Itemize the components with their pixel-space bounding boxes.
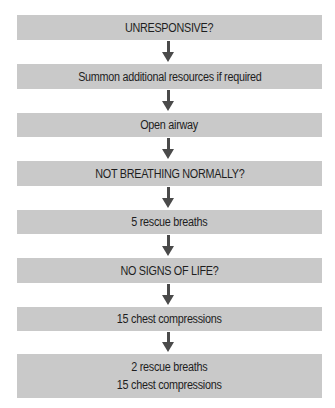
arrow-down-icon: [162, 187, 174, 209]
step-label: UNRESPONSIVE?: [125, 19, 213, 37]
step-label: NO SIGNS OF LIFE?: [120, 262, 218, 280]
arrow-down-icon: [162, 138, 174, 160]
step-label: 15 chest compressions: [117, 310, 222, 328]
step-label: 5 rescue breaths: [131, 213, 207, 231]
arrow-down-icon: [162, 235, 174, 257]
step-not-breathing: NOT BREATHING NORMALLY?: [17, 161, 322, 186]
step-rescue-breaths-5: 5 rescue breaths: [17, 210, 322, 234]
step-open-airway: Open airway: [17, 113, 322, 137]
arrow-down-icon: [162, 41, 174, 63]
step-cycle: 2 rescue breaths 15 chest compressions: [17, 354, 322, 398]
step-label: Summon additional resources if required: [78, 68, 261, 86]
step-chest-compressions-15: 15 chest compressions: [17, 307, 322, 331]
step-no-signs-of-life: NO SIGNS OF LIFE?: [17, 258, 322, 283]
step-label: NOT BREATHING NORMALLY?: [95, 165, 244, 183]
arrow-down-icon: [162, 90, 174, 112]
step-label-line-1: 2 rescue breaths: [131, 358, 207, 376]
step-unresponsive: UNRESPONSIVE?: [17, 15, 322, 40]
step-summon-resources: Summon additional resources if required: [17, 64, 322, 89]
arrow-down-icon: [162, 284, 174, 306]
step-label: Open airway: [141, 116, 199, 134]
step-label-line-2: 15 chest compressions: [117, 376, 222, 394]
arrow-down-icon: [162, 332, 174, 353]
flowchart: UNRESPONSIVE? Summon additional resource…: [0, 0, 335, 408]
